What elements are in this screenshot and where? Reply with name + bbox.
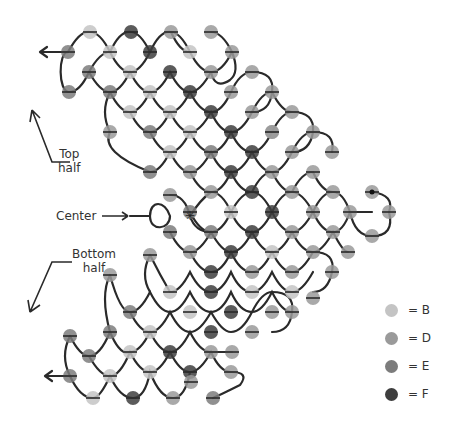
top-half-label: Top half [58, 147, 81, 175]
start-dot-icon [370, 190, 375, 195]
legend-item-f: = F [385, 387, 429, 401]
bead-b-swatch-icon [385, 304, 398, 317]
bead-e-swatch-icon [385, 360, 398, 373]
bottom-half-label: Bottom half [72, 247, 116, 275]
legend-label-e: = E [408, 359, 429, 373]
legend-item-e: = E [385, 359, 429, 373]
center-star-icon: ✳ [185, 209, 195, 223]
top-label-line2: half [58, 161, 81, 175]
bottom-label-line1: Bottom [72, 247, 116, 261]
legend-item-d: = D [385, 331, 431, 345]
legend-label-b: = B [408, 303, 430, 317]
center-label: Center [56, 209, 96, 223]
bead-f-swatch-icon [385, 388, 398, 401]
top-label-line1: Top [58, 147, 81, 161]
legend-label-d: = D [408, 331, 431, 345]
bead-d-swatch-icon [385, 332, 398, 345]
legend-item-b: = B [385, 303, 430, 317]
bottom-label-line2: half [72, 261, 116, 275]
legend-label-f: = F [408, 387, 429, 401]
